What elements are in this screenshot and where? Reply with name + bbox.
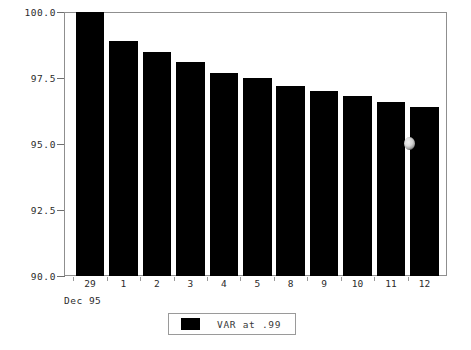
x-tick-label: 11 [385, 278, 396, 289]
y-tick-label: 92.5 [0, 205, 56, 216]
bar [210, 73, 239, 276]
x-tick-label: 9 [321, 278, 327, 289]
x-tick-mark [73, 277, 74, 281]
x-axis: 291234589101112 [64, 278, 447, 296]
x-tick-mark [374, 277, 375, 281]
bar-chart: 100.097.595.092.590.0 291234589101112 De… [0, 0, 471, 350]
bars-layer [64, 12, 447, 276]
x-tick-label: 3 [187, 278, 193, 289]
bar [343, 96, 372, 276]
x-tick-mark [341, 277, 342, 281]
x-tick-mark [240, 277, 241, 281]
y-tick-label: 90.0 [0, 271, 56, 282]
bar [176, 62, 205, 276]
legend-label-var-at-99: VAR at .99 [217, 319, 281, 330]
x-tick-mark [140, 277, 141, 281]
bar [377, 102, 406, 276]
x-tick-mark [408, 277, 409, 281]
x-tick-label: 4 [221, 278, 227, 289]
y-tick-label: 95.0 [0, 139, 56, 150]
x-axis-caption: Dec 95 [64, 295, 101, 306]
x-tick-mark [174, 277, 175, 281]
x-tick-mark [307, 277, 308, 281]
bar [143, 52, 172, 276]
x-tick-mark [274, 277, 275, 281]
x-tick-mark [107, 277, 108, 281]
bar [410, 107, 439, 276]
x-tick-mark [207, 277, 208, 281]
bar [76, 12, 105, 276]
bar [276, 86, 305, 276]
x-tick-label: 12 [419, 278, 430, 289]
y-tick-label: 97.5 [0, 73, 56, 84]
y-tick-mark [57, 276, 65, 277]
legend-swatch-var-at-99 [181, 318, 200, 330]
bar [310, 91, 339, 276]
y-tick-label: 100.0 [0, 7, 56, 18]
x-tick-label: 1 [121, 278, 127, 289]
x-tick-label: 29 [84, 278, 95, 289]
y-axis: 100.097.595.092.590.0 [0, 0, 56, 350]
x-tick-label: 2 [154, 278, 160, 289]
bar [243, 78, 272, 276]
x-tick-label: 5 [254, 278, 260, 289]
legend: VAR at .99 [168, 313, 296, 335]
bar [109, 41, 138, 276]
x-tick-label: 8 [288, 278, 294, 289]
x-tick-label: 10 [352, 278, 363, 289]
